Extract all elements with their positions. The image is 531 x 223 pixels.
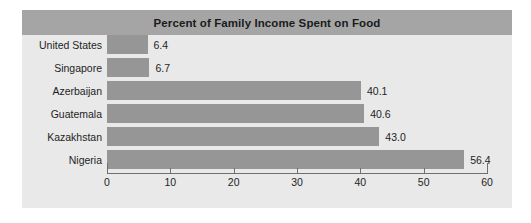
x-tick-mark	[424, 168, 425, 174]
x-tick-label: 30	[291, 177, 303, 188]
x-tick-mark	[234, 168, 235, 174]
x-tick-mark	[297, 168, 298, 174]
chart-title: Percent of Family Income Spent on Food	[154, 17, 381, 29]
x-tick-label: 10	[164, 177, 176, 188]
plot-region: United StatesSingaporeAzerbaijanGuatemal…	[22, 35, 512, 208]
x-tick-mark	[170, 168, 171, 174]
x-tick-label: 20	[228, 177, 240, 188]
x-tick-label: 60	[481, 177, 493, 188]
x-tick-label: 40	[354, 177, 366, 188]
x-tick-label: 50	[418, 177, 430, 188]
chart-title-band: Percent of Family Income Spent on Food	[22, 10, 512, 35]
x-tick-mark	[360, 168, 361, 174]
x-tick-label: 0	[104, 177, 110, 188]
chart-figure: Percent of Family Income Spent on Food U…	[22, 10, 512, 208]
x-axis-ticks: 0102030405060	[22, 35, 512, 208]
